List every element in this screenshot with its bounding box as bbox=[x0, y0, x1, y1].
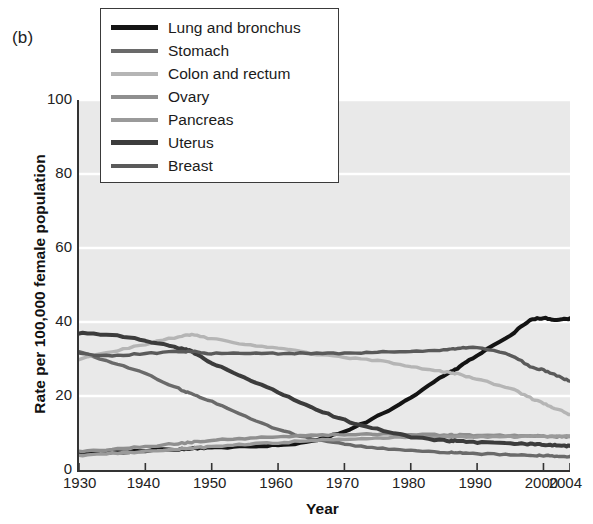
y-tick-label: 60 bbox=[24, 238, 72, 255]
legend-item[interactable]: Colon and rectum bbox=[101, 62, 338, 85]
legend-line-swatch bbox=[111, 164, 158, 168]
legend-item-label: Uterus bbox=[168, 135, 214, 151]
legend-item[interactable]: Pancreas bbox=[101, 108, 338, 131]
legend-item-label: Breast bbox=[168, 158, 213, 174]
x-tick-label: 2004 bbox=[549, 474, 582, 491]
legend-item-label: Stomach bbox=[168, 43, 229, 59]
legend-line-swatch bbox=[111, 49, 158, 53]
legend-line-swatch bbox=[111, 95, 158, 99]
legend-line-swatch bbox=[111, 140, 158, 145]
y-tick-label: 40 bbox=[24, 312, 72, 329]
legend-item-label: Pancreas bbox=[168, 112, 233, 128]
x-tick-label: 1960 bbox=[259, 474, 292, 491]
legend-item[interactable]: Lung and bronchus bbox=[101, 16, 338, 39]
y-tick-label: 80 bbox=[24, 164, 72, 181]
x-axis-tick-labels: 193019401950196019701980199020002004 bbox=[0, 474, 593, 498]
x-tick-label: 1950 bbox=[193, 474, 226, 491]
legend-item[interactable]: Uterus bbox=[101, 131, 338, 154]
x-tick-label: 1940 bbox=[127, 474, 160, 491]
y-tick-label: 100 bbox=[24, 90, 72, 107]
y-axis-tick-labels: 020406080100 bbox=[14, 0, 72, 524]
y-tick-label: 20 bbox=[24, 386, 72, 403]
x-tick-label: 1930 bbox=[63, 474, 96, 491]
x-tick-label: 1980 bbox=[392, 474, 425, 491]
legend-item-label: Ovary bbox=[168, 89, 209, 105]
legend-item[interactable]: Breast bbox=[101, 154, 338, 177]
legend-line-swatch bbox=[111, 72, 158, 76]
legend-item-label: Colon and rectum bbox=[168, 66, 290, 82]
legend: Lung and bronchusStomachColon and rectum… bbox=[100, 8, 339, 183]
legend-line-swatch bbox=[111, 25, 158, 30]
legend-item[interactable]: Ovary bbox=[101, 85, 338, 108]
legend-line-swatch bbox=[111, 118, 158, 122]
x-tick-label: 1990 bbox=[458, 474, 491, 491]
x-axis-title: Year bbox=[77, 500, 568, 518]
figure-container: (b) Rate per 100,000 female population 0… bbox=[0, 0, 593, 524]
legend-item[interactable]: Stomach bbox=[101, 39, 338, 62]
legend-item-label: Lung and bronchus bbox=[168, 20, 301, 36]
series-line bbox=[79, 334, 570, 414]
x-tick-label: 1970 bbox=[326, 474, 359, 491]
